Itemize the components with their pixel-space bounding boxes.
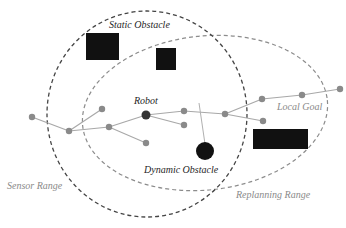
tree-node [143, 140, 149, 146]
dynamic-obstacle-circle [196, 142, 214, 160]
tree-node [106, 124, 112, 130]
tree-node [181, 122, 187, 128]
planning-diagram: Static Obstacle Robot Local Goal Dynamic… [0, 0, 346, 228]
tree-node [99, 106, 105, 112]
dynamic-obstacle-rect [253, 129, 308, 149]
tree-edge [146, 115, 184, 125]
static-obstacle-small [156, 48, 176, 70]
local-goal-node [337, 86, 343, 92]
dynamic-obstacle-label: Dynamic Obstacle [143, 164, 219, 175]
tree-edge [262, 95, 302, 99]
tree-node [222, 111, 228, 117]
tree-node [29, 114, 35, 120]
tree-node [181, 108, 187, 114]
tree-node [260, 118, 266, 124]
tree-node [66, 128, 72, 134]
static-obstacle-large [86, 33, 119, 60]
tree-edge [109, 115, 146, 127]
replanning-range-label: Replanning Range [235, 189, 311, 200]
local-goal-label: Local Goal [276, 101, 323, 112]
dynamic-obstacle-trajectory [199, 103, 205, 144]
tree-edge [109, 127, 146, 143]
tree-edge [225, 99, 262, 114]
tree-node [299, 92, 305, 98]
tree-edge [184, 111, 225, 114]
tree-edge [32, 117, 69, 131]
static-obstacle-label: Static Obstacle [109, 19, 170, 30]
robot-label: Robot [133, 95, 158, 106]
tree-edge [146, 111, 184, 115]
sensor-range-label: Sensor Range [7, 180, 63, 191]
tree-edge [302, 89, 340, 95]
robot-node [142, 111, 151, 120]
tree-node [259, 96, 265, 102]
tree-edge [225, 114, 263, 121]
